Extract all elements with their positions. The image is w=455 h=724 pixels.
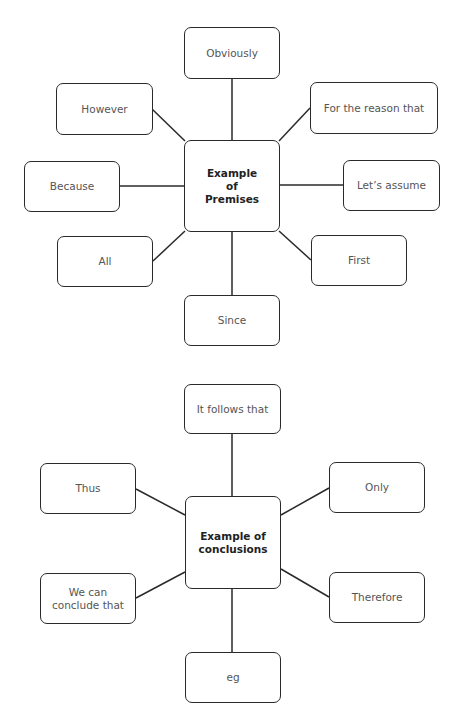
- premise-node-obviously: Obviously: [184, 27, 280, 79]
- conclusion-node-thus: Thus: [40, 463, 136, 514]
- conclusion-node-only: Only: [329, 462, 425, 513]
- premise-node-since: Since: [184, 295, 280, 346]
- conclusions-center-node: Example of conclusions: [185, 496, 281, 589]
- conclusion-node-eg: eg: [185, 652, 281, 703]
- premise-node-first: First: [311, 235, 407, 286]
- conclusion-node-therefore: Therefore: [329, 572, 425, 623]
- premise-node-all: All: [57, 236, 153, 287]
- premise-node-because: Because: [24, 161, 120, 212]
- premises-center-node: Example of Premises: [184, 140, 280, 232]
- conclusion-node-it-follows-that: It follows that: [184, 384, 281, 434]
- premise-node-lets-assume: Let’s assume: [343, 160, 440, 211]
- premise-node-for-the-reason-that: For the reason that: [310, 82, 438, 134]
- premise-node-however: However: [56, 83, 153, 135]
- conclusion-node-we-can-conclude-that: We can conclude that: [40, 573, 136, 624]
